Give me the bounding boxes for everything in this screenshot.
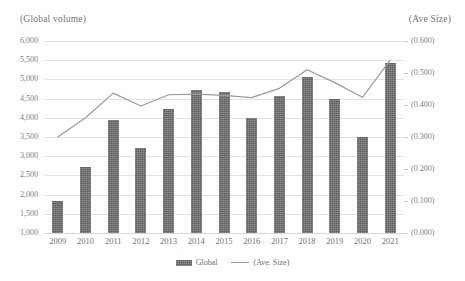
- x-axis-ticks: 2009201020112012201320142015201620172018…: [44, 236, 404, 250]
- chart-container: (Global volume) (Ave Size) 6,0005,5005,0…: [0, 0, 465, 281]
- left-axis-tick-label: 2,000: [20, 191, 38, 199]
- left-axis-tick-label: 2,500: [20, 171, 38, 179]
- line-series-path-svg: [44, 41, 404, 233]
- x-axis-tick-label: 2012: [132, 236, 149, 246]
- legend-item-global: Global: [176, 258, 218, 267]
- right-axis-tick-mark: [404, 137, 408, 138]
- left-axis-tick-label: 6,000: [20, 37, 38, 45]
- left-axis-tick-label: 5,000: [20, 75, 38, 83]
- right-axis-tick-label: (0.000): [411, 229, 434, 237]
- right-axis-tick-label: (0.400): [411, 101, 434, 109]
- x-axis-tick-label: 2018: [299, 236, 316, 246]
- legend-line-swatch-icon: [231, 262, 249, 263]
- left-axis-tick-label: 3,000: [20, 152, 38, 160]
- right-axis-tick-mark: [404, 73, 408, 74]
- left-axis-tick-label: 3,500: [20, 133, 38, 141]
- right-axis-tick-label: (0.300): [411, 133, 434, 141]
- right-axis-tick-label: (0.600): [411, 37, 434, 45]
- left-axis-tick-label: 4,500: [20, 95, 38, 103]
- x-axis-tick-label: 2011: [105, 236, 122, 246]
- x-axis-tick-label: 2009: [49, 236, 66, 246]
- x-axis-tick-label: 2021: [382, 236, 399, 246]
- x-axis-tick-label: 2020: [354, 236, 371, 246]
- right-axis-tick-mark: [404, 201, 408, 202]
- gridline: [44, 233, 404, 234]
- right-axis-tick-label: (0.500): [411, 69, 434, 77]
- left-axis-tick-label: 1,000: [20, 229, 38, 237]
- ave-size-polyline: [58, 60, 390, 137]
- x-axis-tick-label: 2016: [243, 236, 260, 246]
- left-axis-tick-label: 4,000: [20, 114, 38, 122]
- right-axis-tick-mark: [404, 169, 408, 170]
- left-axis-tick-label: 5,500: [20, 56, 38, 64]
- x-axis-tick-label: 2014: [188, 236, 205, 246]
- x-axis-tick-label: 2010: [77, 236, 94, 246]
- plot-area: 6,0005,5005,0004,5004,0003,5003,0002,500…: [44, 41, 404, 233]
- chart-legend: Global (Ave. Size): [0, 258, 465, 267]
- x-axis-tick-label: 2015: [216, 236, 233, 246]
- x-axis-tick-label: 2017: [271, 236, 288, 246]
- legend-label-global: Global: [196, 258, 218, 267]
- right-axis-title: (Ave Size): [409, 14, 451, 24]
- left-axis-tick-label: 1,500: [20, 210, 38, 218]
- right-axis-tick-mark: [404, 105, 408, 106]
- legend-bar-swatch-icon: [176, 260, 192, 266]
- right-axis-tick-mark: [404, 41, 408, 42]
- right-axis-tick-mark: [404, 233, 408, 234]
- line-series-ave-size: [44, 41, 404, 233]
- right-axis-tick-label: (0.200): [411, 165, 434, 173]
- right-axis-tick-label: (0.100): [411, 197, 434, 205]
- left-axis-title: (Global volume): [20, 14, 86, 24]
- x-axis-tick-label: 2013: [160, 236, 177, 246]
- x-axis-tick-label: 2019: [326, 236, 343, 246]
- legend-label-ave-size: (Ave. Size): [253, 258, 289, 267]
- legend-item-ave-size: (Ave. Size): [231, 258, 289, 267]
